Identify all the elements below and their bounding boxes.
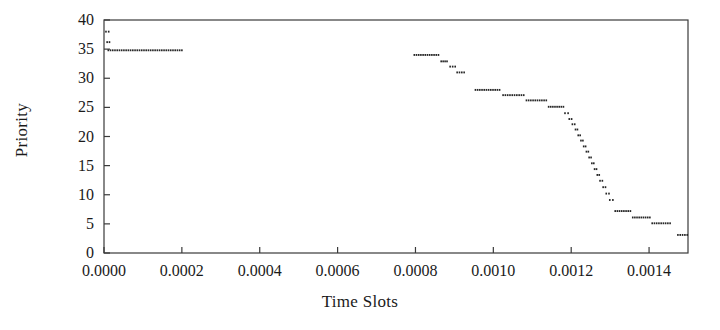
data-segment — [449, 66, 456, 68]
data-segment — [572, 123, 576, 125]
data-marker — [514, 94, 516, 96]
data-marker — [422, 54, 424, 56]
data-segment — [440, 60, 447, 62]
data-marker — [602, 186, 604, 188]
data-marker — [647, 217, 649, 219]
x-axis-ticks — [104, 247, 649, 253]
data-marker — [435, 54, 437, 56]
data-marker — [605, 193, 607, 195]
data-marker — [114, 49, 116, 51]
data-marker — [494, 89, 496, 91]
data-marker — [638, 217, 640, 219]
data-marker — [161, 49, 163, 51]
data-segment — [609, 199, 614, 201]
data-marker — [636, 217, 638, 219]
data-marker — [502, 94, 504, 96]
data-segment — [502, 94, 524, 96]
data-marker — [454, 66, 456, 68]
data-marker — [643, 217, 645, 219]
data-marker — [561, 106, 563, 108]
data-marker — [463, 71, 465, 73]
data-marker — [416, 54, 418, 56]
data-marker — [481, 89, 483, 91]
x-tick-label: 0.0002 — [137, 263, 227, 279]
data-marker — [134, 49, 136, 51]
data-marker — [446, 60, 448, 62]
data-marker — [623, 210, 625, 212]
data-marker — [686, 234, 688, 236]
data-segment — [583, 145, 587, 147]
data-marker — [539, 99, 541, 101]
data-marker — [588, 151, 590, 153]
data-marker — [433, 54, 435, 56]
data-marker — [516, 94, 518, 96]
data-marker — [483, 89, 485, 91]
data-marker — [123, 49, 125, 51]
y-axis-ticks — [104, 20, 110, 253]
data-marker — [625, 210, 627, 212]
data-marker — [543, 99, 545, 101]
data-segment — [580, 140, 584, 142]
data-marker — [593, 162, 595, 164]
data-marker — [490, 89, 492, 91]
data-marker — [486, 89, 488, 91]
data-marker — [518, 94, 520, 96]
data-marker — [145, 49, 147, 51]
data-marker — [116, 49, 118, 51]
data-marker — [497, 89, 499, 91]
data-marker — [546, 99, 548, 101]
data-segment — [568, 118, 572, 120]
data-marker — [590, 157, 592, 159]
data-marker — [530, 99, 532, 101]
data-marker — [488, 89, 490, 91]
data-marker — [106, 41, 108, 43]
data-segment — [594, 168, 598, 170]
data-segment — [548, 106, 564, 108]
data-marker — [665, 222, 667, 224]
data-marker — [181, 49, 183, 51]
data-marker — [163, 49, 165, 51]
data-marker — [554, 106, 556, 108]
data-marker — [136, 49, 138, 51]
data-marker — [148, 49, 150, 51]
y-tick-label: 30 — [54, 70, 94, 86]
data-marker — [154, 49, 156, 51]
data-marker — [602, 180, 604, 182]
chart-figure: 0510152025303540 0.00000.00020.00040.000… — [0, 0, 720, 330]
data-marker — [568, 118, 570, 120]
data-marker — [152, 49, 154, 51]
data-marker — [479, 89, 481, 91]
data-segment — [108, 49, 183, 51]
data-marker — [110, 49, 112, 51]
data-marker — [418, 54, 420, 56]
x-tick-label: 0.0014 — [604, 263, 694, 279]
x-tick-label: 0.0000 — [59, 263, 149, 279]
data-segment — [456, 71, 465, 73]
plot-border — [104, 20, 688, 253]
data-marker — [583, 145, 585, 147]
data-marker — [420, 54, 422, 56]
data-marker — [660, 222, 662, 224]
data-marker — [168, 49, 170, 51]
y-tick-label: 0 — [54, 245, 94, 261]
data-marker — [563, 106, 565, 108]
data-marker — [125, 49, 127, 51]
y-tick-label: 5 — [54, 216, 94, 232]
data-marker — [112, 49, 114, 51]
data-marker — [541, 99, 543, 101]
data-marker — [634, 217, 636, 219]
data-marker — [159, 49, 161, 51]
data-marker — [442, 60, 444, 62]
data-marker — [461, 71, 463, 73]
data-marker — [528, 99, 530, 101]
data-marker — [658, 222, 660, 224]
data-marker — [627, 210, 629, 212]
data-marker — [550, 106, 552, 108]
y-tick-label: 25 — [54, 99, 94, 115]
data-marker — [630, 210, 632, 212]
data-marker — [534, 99, 536, 101]
y-tick-label: 15 — [54, 158, 94, 174]
data-marker — [444, 60, 446, 62]
y-tick-label: 20 — [54, 129, 94, 145]
data-segment — [564, 112, 569, 114]
